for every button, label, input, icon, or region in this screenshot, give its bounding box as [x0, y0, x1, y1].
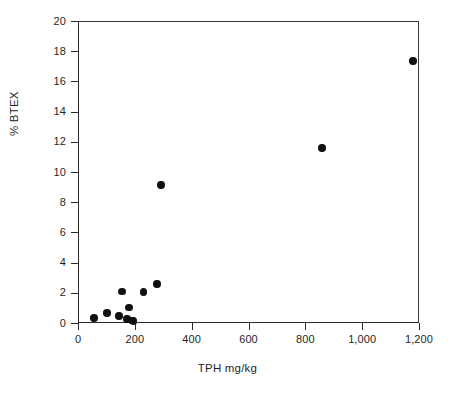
- data-point: [140, 288, 147, 295]
- x-axis-tick: [419, 323, 420, 330]
- y-axis-tick-label: 18: [26, 46, 66, 57]
- x-axis-tick: [192, 323, 193, 330]
- data-point: [153, 280, 160, 287]
- x-axis-tick: [305, 323, 306, 330]
- y-axis-tick: [71, 293, 78, 294]
- y-axis-tick-label: 16: [26, 76, 66, 87]
- y-axis-tick-label: 8: [26, 197, 66, 208]
- x-axis-tick-label: 200: [105, 334, 165, 345]
- y-axis-tick: [71, 263, 78, 264]
- y-axis-tick-label: 4: [26, 257, 66, 268]
- y-axis-tick-label: 14: [26, 106, 66, 117]
- y-axis-tick: [71, 202, 78, 203]
- data-point: [409, 57, 416, 64]
- y-axis-tick-label: 6: [26, 227, 66, 238]
- data-point: [103, 309, 110, 316]
- y-axis-tick: [71, 323, 78, 324]
- x-axis-tick: [249, 323, 250, 330]
- x-axis-tick-label: 0: [48, 334, 108, 345]
- y-axis-tick: [71, 112, 78, 113]
- y-axis-tick: [71, 21, 78, 22]
- data-point: [157, 181, 164, 188]
- x-axis-title: TPH mg/kg: [0, 362, 455, 374]
- y-axis-tick: [71, 51, 78, 52]
- y-axis-title: % BTEX: [8, 118, 20, 136]
- x-axis-tick-label: 600: [219, 334, 279, 345]
- y-axis-tick: [71, 142, 78, 143]
- y-axis-tick-label: 2: [26, 287, 66, 298]
- y-axis-tick-label: 20: [26, 16, 66, 27]
- data-point: [318, 144, 325, 151]
- x-axis-tick-label: 800: [275, 334, 335, 345]
- x-axis-tick: [362, 323, 363, 330]
- y-axis-tick: [71, 81, 78, 82]
- x-axis-tick-label: 1,000: [332, 334, 392, 345]
- data-point: [125, 304, 132, 311]
- y-axis-tick-label: 0: [26, 318, 66, 329]
- y-axis-tick-label: 12: [26, 136, 66, 147]
- y-axis-tick: [71, 172, 78, 173]
- x-axis-tick: [78, 323, 79, 330]
- y-axis-tick-label: 10: [26, 167, 66, 178]
- y-axis-tick: [71, 232, 78, 233]
- data-point: [130, 317, 137, 324]
- x-axis-tick-label: 400: [162, 334, 222, 345]
- data-point: [90, 314, 97, 321]
- scatter-chart-figure: 02468101214161820 02004006008001,0001,20…: [0, 0, 455, 394]
- data-point: [115, 312, 122, 319]
- plot-area-frame: [78, 21, 419, 323]
- x-axis-tick-label: 1,200: [389, 334, 449, 345]
